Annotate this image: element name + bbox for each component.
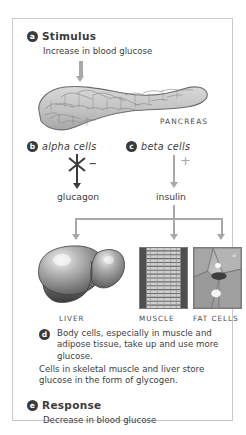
branch-bar bbox=[75, 218, 223, 220]
alpha-cells-label: alpha cells bbox=[42, 141, 96, 152]
branch-middle-arrow-icon bbox=[170, 234, 178, 240]
muscle-tissue-image bbox=[139, 247, 188, 309]
step-badge-e: e bbox=[27, 400, 38, 411]
step-e-response: eResponse bbox=[27, 398, 101, 411]
step-badge-c: c bbox=[126, 141, 137, 152]
step-badge-a: a bbox=[27, 31, 38, 42]
glucagon-label: glucagon bbox=[57, 191, 99, 202]
response-description: Decrease in blood glucose bbox=[43, 415, 156, 426]
step-badge-b: b bbox=[27, 141, 38, 152]
step-d-description-2: Cells in skeletal muscle and liver store… bbox=[39, 364, 231, 387]
branch-right-arrow-icon bbox=[217, 234, 225, 240]
pancreas-illustration bbox=[31, 77, 211, 139]
step-d-description: Body cells, especially in muscle and adi… bbox=[57, 328, 232, 362]
pancreas-label: PANCREAS bbox=[160, 117, 208, 126]
liver-label: LIVER bbox=[59, 314, 85, 323]
stimulus-arrow-shaft bbox=[79, 61, 83, 77]
stimulus-heading: Stimulus bbox=[42, 30, 96, 42]
response-heading: Response bbox=[42, 399, 101, 411]
insulin-arrow-shaft bbox=[173, 155, 175, 184]
fat-cells-image bbox=[193, 247, 242, 309]
branch-left-arrow-icon bbox=[72, 234, 80, 240]
fat-cells-label: FAT CELLS bbox=[193, 314, 239, 323]
step-c-beta-cells: cbeta cells bbox=[126, 139, 190, 152]
insulin-label: insulin bbox=[156, 191, 186, 202]
muscle-label: MUSCLE bbox=[139, 314, 175, 323]
plus-sign: + bbox=[180, 155, 191, 167]
figure-frame: aStimulus Increase in blood glucose bbox=[12, 18, 233, 421]
minus-sign: – bbox=[89, 157, 97, 169]
insulin-arrow-head bbox=[170, 182, 178, 188]
glucagon-arrow-head bbox=[73, 183, 81, 189]
step-b-alpha-cells: balpha cells bbox=[27, 139, 96, 152]
step-a-stimulus: aStimulus bbox=[27, 29, 96, 42]
step-badge-d: d bbox=[39, 329, 50, 340]
liver-illustration bbox=[35, 241, 127, 311]
branch-stem bbox=[173, 205, 175, 219]
x-cross-icon bbox=[67, 156, 87, 173]
stimulus-description: Increase in blood glucose bbox=[43, 46, 152, 57]
beta-cells-label: beta cells bbox=[141, 141, 190, 152]
